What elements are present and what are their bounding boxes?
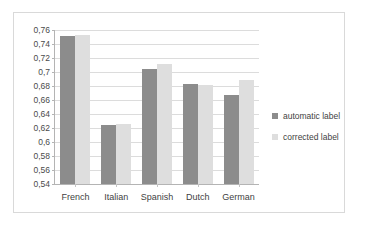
legend-label-automatic-label: automatic label xyxy=(283,112,340,121)
x-axis-tick xyxy=(239,184,240,187)
y-axis-label: 0,64 xyxy=(33,110,50,119)
bar xyxy=(75,35,90,184)
x-axis-label: German xyxy=(222,193,255,202)
legend-label-corrected-label: corrected label xyxy=(283,133,339,142)
bar-group xyxy=(60,30,90,184)
y-axis-label: 0,74 xyxy=(33,40,50,49)
bar-group xyxy=(142,30,172,184)
x-axis-tick xyxy=(75,184,76,187)
bar-group xyxy=(183,30,213,184)
y-axis-label: 0,72 xyxy=(33,54,50,63)
y-axis-tick xyxy=(52,170,55,171)
chart-legend: automatic label corrected label xyxy=(272,111,366,153)
y-axis-tick xyxy=(52,58,55,59)
y-axis-tick xyxy=(52,30,55,31)
bar xyxy=(198,85,213,184)
legend-swatch-corrected-label xyxy=(272,134,278,140)
legend-swatch-automatic-label xyxy=(272,113,278,119)
y-axis-label: 0,54 xyxy=(33,180,50,189)
x-axis-label: French xyxy=(61,193,89,202)
bar-group xyxy=(224,30,254,184)
x-axis-tick xyxy=(198,184,199,187)
x-axis-tick xyxy=(157,184,158,187)
y-axis-label: 0,76 xyxy=(33,26,50,35)
y-axis-tick xyxy=(52,114,55,115)
y-axis-label: 0,68 xyxy=(33,82,50,91)
y-axis-tick xyxy=(52,86,55,87)
bar xyxy=(183,84,198,184)
legend-item-automatic-label: automatic label xyxy=(272,111,366,121)
y-axis-tick xyxy=(52,128,55,129)
x-axis-label: Spanish xyxy=(141,193,174,202)
chart-figure: 0,760,740,720,70,680,660,640,620,60,580,… xyxy=(13,12,345,213)
y-axis-label: 0,7 xyxy=(38,68,50,77)
bar-group xyxy=(101,30,131,184)
y-axis-tick xyxy=(52,184,55,185)
y-axis-label: 0,66 xyxy=(33,96,50,105)
y-axis-label: 0,6 xyxy=(38,138,50,147)
bar xyxy=(116,124,131,184)
bar xyxy=(60,36,75,184)
x-axis-label: Italian xyxy=(104,193,128,202)
y-axis-tick xyxy=(52,142,55,143)
plot-area: 0,760,740,720,70,680,660,640,620,60,580,… xyxy=(54,30,259,185)
bar xyxy=(157,64,172,184)
bar xyxy=(101,125,116,184)
y-axis-tick xyxy=(52,156,55,157)
bar xyxy=(142,69,157,185)
y-axis-tick xyxy=(52,100,55,101)
x-axis-label: Dutch xyxy=(186,193,210,202)
legend-item-corrected-label: corrected label xyxy=(272,132,366,142)
y-axis-tick xyxy=(52,72,55,73)
bar xyxy=(239,80,254,184)
x-axis-tick xyxy=(116,184,117,187)
bar xyxy=(224,95,239,184)
y-axis-label: 0,56 xyxy=(33,166,50,175)
y-axis-tick xyxy=(52,44,55,45)
y-axis-label: 0,62 xyxy=(33,124,50,133)
y-axis-label: 0,58 xyxy=(33,152,50,161)
